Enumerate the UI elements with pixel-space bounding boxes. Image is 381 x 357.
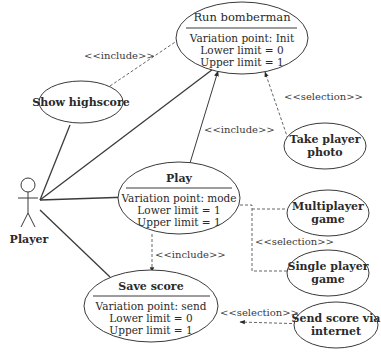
variation-point: Variation point: Init [189,32,295,44]
use-case-title: Multiplayer [292,200,364,213]
use-case-title: Run bomberman [193,10,291,24]
use-case-title: Send score via [291,312,380,325]
assoc-player-save [40,210,110,277]
lower-limit: Lower limit = 0 [109,312,192,324]
upper-limit: Upper limit = 1 [200,56,283,68]
include-label-save: <<include>> [155,249,226,260]
include-label-play: <<include>> [204,124,275,135]
use-case-play[interactable]: Play Variation point: mode Lower limit =… [118,162,240,234]
variation-point: Variation point: send [95,300,207,312]
actor-head-icon [21,178,35,192]
include-play-run [190,71,218,163]
variation-point: Variation point: mode [121,192,237,204]
use-case-title: Show highscore [32,96,129,109]
use-case-run-bomberman[interactable]: Run bomberman Variation point: Init Lowe… [176,2,308,74]
use-case-diagram: Run bomberman Variation point: Init Lowe… [0,0,381,357]
use-case-title-2: photo [307,146,342,159]
use-case-single-player-game[interactable]: Single player game [287,250,369,296]
actor-label: Player [10,233,49,246]
upper-limit: Upper limit = 1 [109,324,192,336]
assoc-player-play [40,197,130,200]
upper-limit: Upper limit = 1 [137,216,220,228]
lower-limit: Lower limit = 0 [200,44,283,56]
selection-label-send: <<selection>> [220,307,299,318]
use-case-title: Single player [287,260,368,273]
include-label-highscore: <<include>> [84,50,155,61]
use-case-title-2: game [311,213,344,226]
use-case-multiplayer-game[interactable]: Multiplayer game [287,190,369,236]
selection-label-photo: <<selection>> [284,91,363,102]
use-case-save-score[interactable]: Save score Variation point: send Lower l… [84,270,218,342]
use-case-title: Take player [290,133,361,146]
use-case-title-2: game [311,273,344,286]
use-case-take-player-photo[interactable]: Take player photo [284,123,366,169]
use-case-show-highscore[interactable]: Show highscore [32,81,129,123]
lower-limit: Lower limit = 1 [137,204,220,216]
selection-label-mode: <<selection>> [255,236,334,247]
use-case-send-score-via-internet[interactable]: Send score via internet [291,302,380,348]
use-case-title-2: internet [311,325,362,338]
use-case-title: Play [166,172,193,185]
use-case-title: Save score [118,280,183,293]
